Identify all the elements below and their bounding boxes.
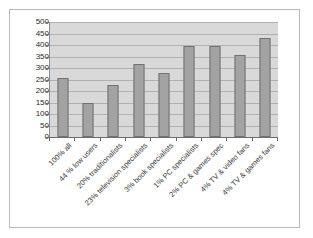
y-tick-label: 0	[17, 133, 49, 141]
plot-area	[49, 22, 278, 137]
bar-slot	[151, 22, 176, 137]
y-axis: 500450400350300250200150100500	[10, 22, 49, 137]
x-tick-mark	[277, 137, 278, 141]
bar-slot	[227, 22, 252, 137]
bar-slot	[101, 22, 126, 137]
bar[interactable]	[260, 38, 271, 137]
x-tick-mark	[150, 137, 151, 141]
bar[interactable]	[82, 103, 93, 137]
bar-slot	[253, 22, 278, 137]
x-tick-mark	[226, 137, 227, 141]
x-tick-mark	[74, 137, 75, 141]
bar[interactable]	[209, 46, 220, 137]
bar[interactable]	[158, 73, 169, 137]
x-axis-line	[49, 137, 278, 138]
y-tick-label: 150	[17, 99, 49, 107]
bar-slot	[177, 22, 202, 137]
bar[interactable]	[133, 64, 144, 137]
y-tick-label: 200	[17, 87, 49, 95]
bar-slot	[75, 22, 100, 137]
bar[interactable]	[57, 78, 68, 137]
y-tick-label: 50	[17, 122, 49, 130]
y-tick-label: 450	[17, 30, 49, 38]
x-tick-mark	[252, 137, 253, 141]
bar-slot	[202, 22, 227, 137]
bar[interactable]	[108, 85, 119, 137]
y-tick-label: 400	[17, 41, 49, 49]
bar[interactable]	[234, 55, 245, 137]
y-tick-label: 350	[17, 53, 49, 61]
x-tick-mark	[176, 137, 177, 141]
chart-figure: 500450400350300250200150100500 100% all4…	[9, 9, 300, 228]
x-tick-mark	[125, 137, 126, 141]
x-axis-labels: 100% all44 % low users20% traditionalist…	[49, 141, 277, 221]
y-tick-label: 250	[17, 76, 49, 84]
x-tick-mark	[201, 137, 202, 141]
y-tick-label: 300	[17, 64, 49, 72]
bar[interactable]	[184, 46, 195, 137]
bar-slot	[126, 22, 151, 137]
y-tick-label: 500	[17, 18, 49, 26]
x-tick-mark	[100, 137, 101, 141]
bar-slot	[50, 22, 75, 137]
y-tick-label: 100	[17, 110, 49, 118]
x-tick-mark	[49, 137, 50, 141]
